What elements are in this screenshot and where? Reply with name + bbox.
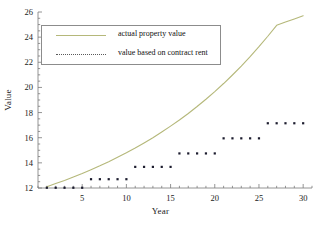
- x-tick-label: 10: [116, 193, 136, 203]
- x-tick-label: 15: [161, 193, 181, 203]
- x-tick-label: 5: [72, 193, 92, 203]
- x-tick-label: 30: [293, 193, 313, 203]
- legend-label-contract-rent: value based on contract rent: [118, 48, 218, 57]
- y-tick-label: 22: [11, 57, 33, 67]
- x-tick-label: 20: [205, 193, 225, 203]
- legend-label-actual-property-value: actual property value: [118, 29, 218, 38]
- chart-legend: actual property value value based on con…: [41, 25, 221, 65]
- y-tick-label: 24: [11, 32, 33, 42]
- y-tick-label: 20: [11, 82, 33, 92]
- y-axis-title: Value: [3, 78, 13, 122]
- y-tick-label: 12: [11, 183, 33, 193]
- legend-entry-actual-property-value: actual property value: [42, 26, 222, 46]
- legend-entry-contract-rent: value based on contract rent: [42, 45, 222, 65]
- x-tick-label: 25: [249, 193, 269, 203]
- y-tick-label: 18: [11, 108, 33, 118]
- y-tick-label: 16: [11, 133, 33, 143]
- x-axis-title: Year: [0, 206, 321, 216]
- chart-figure: 1214161820222426 51015202530 Value Year …: [0, 0, 321, 230]
- y-tick-label: 26: [11, 7, 33, 17]
- legend-line-sample-dotted: [56, 54, 106, 55]
- y-tick-label: 14: [11, 158, 33, 168]
- legend-line-sample-solid: [56, 35, 106, 36]
